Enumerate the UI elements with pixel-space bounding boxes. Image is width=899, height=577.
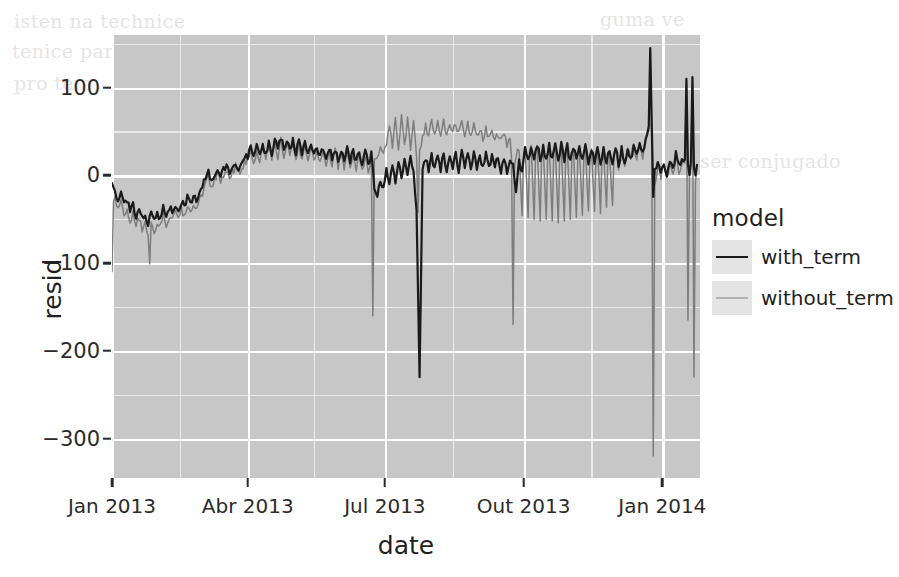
y-tick-mark — [103, 262, 111, 265]
legend-item-without-term[interactable]: without_term — [712, 281, 892, 315]
series-layer — [112, 35, 700, 478]
x-tick-mark — [522, 478, 525, 487]
x-tick-mark — [661, 478, 664, 487]
legend-line-swatch — [716, 298, 748, 299]
x-tick-mark — [111, 478, 114, 487]
residual-time-series-chart: 1000−100−200−300 Jan 2013Abr 2013Jul 201… — [0, 0, 899, 577]
legend-label-with-term: with_term — [761, 245, 861, 269]
plot-panel-wrapper: 1000−100−200−300 Jan 2013Abr 2013Jul 201… — [112, 35, 700, 478]
y-tick-mark — [103, 437, 111, 440]
series-line-without-term — [112, 61, 697, 456]
legend-title: model — [712, 205, 892, 231]
y-tick-label: 100 — [60, 76, 100, 100]
legend: model with_term without_term — [712, 205, 892, 322]
legend-line-swatch — [716, 256, 748, 258]
x-tick-label: Abr 2013 — [202, 494, 294, 518]
x-tick-mark — [384, 478, 387, 487]
plot-panel — [112, 35, 700, 478]
x-axis-title: date — [112, 531, 700, 560]
x-tick-label: Jul 2013 — [344, 494, 425, 518]
x-tick-label: Jan 2013 — [68, 494, 156, 518]
x-tick-label: Jan 2014 — [618, 494, 706, 518]
legend-key-without-term — [712, 281, 752, 315]
y-axis-title: resid — [38, 258, 67, 319]
x-tick-label: Out 2013 — [477, 494, 571, 518]
y-tick-mark — [103, 86, 111, 89]
y-tick-mark — [103, 174, 111, 177]
legend-label-without-term: without_term — [761, 286, 894, 310]
legend-item-with-term[interactable]: with_term — [712, 240, 892, 274]
y-tick-label: −300 — [42, 427, 100, 451]
series-line-with-term — [112, 48, 697, 377]
y-tick-mark — [103, 350, 111, 353]
y-tick-label: −200 — [42, 339, 100, 363]
x-tick-mark — [246, 478, 249, 487]
legend-key-with-term — [712, 240, 752, 274]
y-tick-label: 0 — [87, 163, 100, 187]
